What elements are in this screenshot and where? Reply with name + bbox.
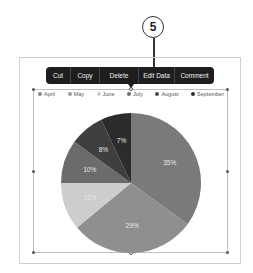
legend-item-may: May <box>68 91 84 97</box>
legend-item-july: July <box>127 91 143 97</box>
legend-label: April <box>44 91 55 97</box>
pie-slice-label: 8% <box>99 146 109 153</box>
resize-handle-top-right[interactable] <box>226 88 229 91</box>
legend-item-april: April <box>38 91 55 97</box>
legend-swatch-icon <box>155 92 159 96</box>
legend-label: August <box>161 91 178 97</box>
toolbar-comment-button[interactable]: Comment <box>175 67 214 84</box>
toolbar-cut-button[interactable]: Cut <box>46 67 71 84</box>
toolbar-pointer-arrow <box>128 84 134 88</box>
callout-number-badge: 5 <box>142 16 164 38</box>
legend-item-september: September <box>191 91 224 97</box>
legend-swatch-icon <box>191 92 195 96</box>
resize-handle-middle-right[interactable] <box>226 170 229 173</box>
toolbar-copy-button[interactable]: Copy <box>71 67 100 84</box>
legend-swatch-icon <box>127 92 131 96</box>
pie-slice-label: 7% <box>117 137 127 144</box>
toolbar-edit-data-button[interactable]: Edit Data <box>139 67 175 84</box>
pie-slice-label: 35% <box>163 159 176 166</box>
resize-handle-bottom-right[interactable] <box>226 251 229 254</box>
legend-label: May <box>74 91 84 97</box>
legend-swatch-icon <box>38 92 42 96</box>
legend-label: July <box>133 91 143 97</box>
pie-slice-label: 10% <box>83 166 96 173</box>
legend-label: September <box>197 91 224 97</box>
legend-swatch-icon <box>68 92 72 96</box>
legend-item-june: June <box>97 91 115 97</box>
legend-swatch-icon <box>97 92 101 96</box>
resize-handle-top-left[interactable] <box>32 88 35 91</box>
legend-label: June <box>103 91 115 97</box>
chart-legend: AprilMayJuneJulyAugustSeptember <box>38 89 224 99</box>
pie-chart[interactable]: 35%29%11%10%8%7% <box>60 112 202 254</box>
toolbar-delete-button[interactable]: Delete <box>100 67 139 84</box>
pie-slice-label: 11% <box>84 194 97 201</box>
pie-slice-label: 29% <box>126 222 139 229</box>
legend-item-august: August <box>155 91 178 97</box>
context-menu-toolbar: CutCopyDeleteEdit DataComment <box>46 67 214 84</box>
resize-handle-bottom-left[interactable] <box>32 251 35 254</box>
resize-handle-middle-left[interactable] <box>32 170 35 173</box>
